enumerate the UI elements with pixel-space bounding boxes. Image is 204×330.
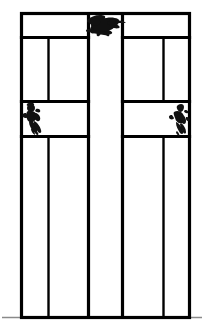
background bbox=[0, 0, 204, 330]
drawing-canvas bbox=[0, 0, 204, 330]
cruciform-window-diagram bbox=[0, 0, 204, 330]
